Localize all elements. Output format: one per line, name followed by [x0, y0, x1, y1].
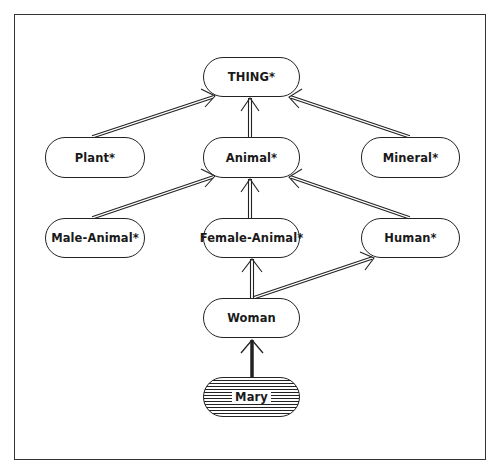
node-animal[interactable]: Animal*	[203, 137, 300, 178]
node-female-animal[interactable]: Female-Animal*	[203, 218, 300, 258]
node-label: THING*	[228, 70, 275, 84]
node-label: Woman	[227, 311, 276, 325]
node-male-animal[interactable]: Male-Animal*	[45, 218, 145, 258]
edge-animal-to-thing	[241, 98, 259, 137]
node-label: Plant*	[75, 151, 115, 165]
node-label: Mary	[232, 391, 271, 404]
edge-plant-to-thing	[92, 89, 215, 138]
node-mary[interactable]: Mary	[203, 377, 300, 417]
node-label: Male-Animal*	[51, 231, 139, 245]
node-label: Human*	[384, 231, 436, 245]
node-mineral[interactable]: Mineral*	[361, 137, 460, 178]
node-thing[interactable]: THING*	[203, 57, 300, 97]
hierarchy-diagram: THING* Plant* Animal* Mineral* Male-Anim…	[0, 0, 500, 472]
edge-mary-to-woman	[241, 340, 263, 377]
arrowhead-icon	[241, 98, 259, 111]
edge-woman-to-female-animal	[242, 259, 262, 298]
node-label: Mineral*	[383, 151, 439, 165]
arrowhead-icon	[241, 179, 259, 192]
node-plant[interactable]: Plant*	[45, 137, 145, 178]
edge-mineral-to-thing	[289, 89, 410, 138]
node-human[interactable]: Human*	[361, 218, 460, 258]
node-label: Female-Animal*	[200, 231, 304, 245]
edge-female-animal-to-animal	[241, 179, 259, 218]
node-woman[interactable]: Woman	[203, 298, 300, 338]
edge-woman-to-human	[253, 252, 374, 299]
node-label: Animal*	[226, 151, 277, 165]
arrowhead-icon	[242, 259, 262, 272]
